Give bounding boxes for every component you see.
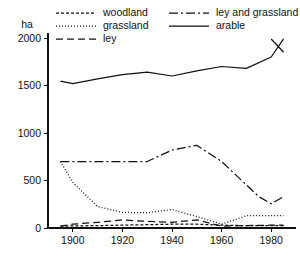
y-axis-unit-label: ha — [21, 18, 33, 30]
x-tick-label: 1900 — [61, 234, 85, 246]
y-axis-ticks: 0500100015002000 — [18, 32, 48, 234]
series-ley — [60, 220, 283, 226]
y-tick-label: 1500 — [18, 79, 42, 91]
series-ley-and-grassland — [60, 145, 283, 203]
x-axis-ticks: 19001920194019601980 — [61, 228, 283, 246]
legend-label: ley — [103, 32, 117, 44]
y-tick-label: 500 — [23, 174, 41, 186]
series-arable — [60, 39, 283, 84]
legend-label: ley and grassland — [216, 6, 298, 18]
legend-label: woodland — [102, 6, 148, 18]
x-tick-label: 1920 — [111, 234, 135, 246]
x-tick-label: 1980 — [260, 234, 284, 246]
x-tick-label: 1960 — [210, 234, 234, 246]
y-tick-label: 1000 — [18, 127, 42, 139]
series-grassland — [60, 162, 283, 225]
y-tick-label: 0 — [35, 222, 41, 234]
legend-label: grassland — [103, 19, 149, 31]
chart-legend: woodlandgrasslandleyley and grasslandara… — [56, 6, 298, 44]
x-tick-label: 1940 — [160, 234, 184, 246]
y-tick-label: 2000 — [18, 32, 42, 44]
legend-label: arable — [216, 19, 245, 31]
chart-container: ha woodlandgrasslandleyley and grassland… — [0, 0, 300, 260]
line-chart: ha woodlandgrasslandleyley and grassland… — [0, 0, 300, 260]
series-lines — [60, 39, 283, 226]
